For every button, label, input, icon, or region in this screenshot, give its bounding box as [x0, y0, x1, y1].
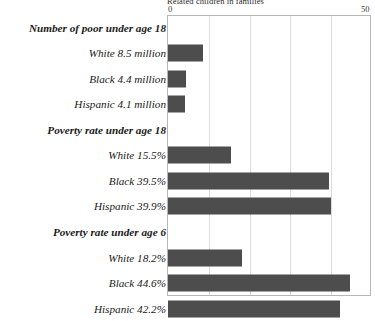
bar	[168, 45, 203, 62]
bar-row-label: Hispanic 42.2%	[94, 303, 166, 315]
axis-title: Related children in families	[167, 0, 264, 6]
bar-row: Hispanic 4.1 million	[0, 92, 375, 118]
section-heading-row: Poverty rate under age 6	[0, 219, 375, 245]
bar-row: Hispanic 42.2%	[0, 296, 375, 321]
bar-row: Black 4.4 million	[0, 66, 375, 92]
bar-row-label: White 8.5 million	[89, 47, 166, 59]
bar-row: Black 44.6%	[0, 270, 375, 296]
section-heading-label: Poverty rate under age 18	[47, 124, 166, 136]
bar	[168, 275, 350, 292]
bar-row: White 15.5%	[0, 143, 375, 169]
bar	[168, 249, 242, 266]
bar-row-label: White 18.2%	[108, 252, 166, 264]
bar-row-label: White 15.5%	[108, 149, 166, 161]
bar-row-label: Hispanic 4.1 million	[74, 98, 166, 110]
x-axis-tick-max: 50	[361, 4, 370, 14]
chart-rows: Number of poor under age 18White 8.5 mil…	[0, 15, 375, 296]
bar	[168, 147, 231, 164]
bar	[168, 70, 186, 87]
section-heading-row: Poverty rate under age 18	[0, 117, 375, 143]
section-heading-label: Poverty rate under age 6	[53, 226, 166, 238]
bar-row: Black 39.5%	[0, 168, 375, 194]
bar-row: White 18.2%	[0, 245, 375, 271]
bar-row-label: Black 4.4 million	[89, 73, 166, 85]
bar-row: Hispanic 39.9%	[0, 194, 375, 220]
bar-row: White 8.5 million	[0, 41, 375, 67]
bar	[168, 300, 340, 317]
bar	[168, 172, 329, 189]
bar-row-label: Black 39.5%	[109, 175, 166, 187]
bar	[168, 96, 185, 113]
x-axis-tick-min: 0	[168, 4, 172, 14]
section-heading-label: Number of poor under age 18	[29, 22, 166, 34]
bar-row-label: Hispanic 39.9%	[94, 200, 166, 212]
section-heading-row: Number of poor under age 18	[0, 15, 375, 41]
bar	[168, 198, 331, 215]
bar-row-label: Black 44.6%	[109, 277, 166, 289]
